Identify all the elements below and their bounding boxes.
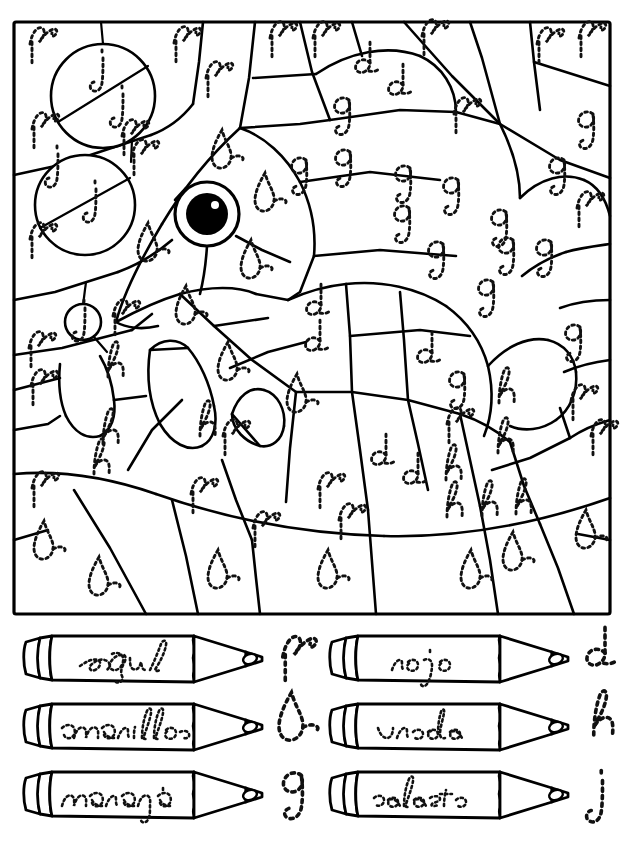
region-letter-h [446,445,461,482]
pencil-icon-celeste [330,772,568,818]
legend-letter-b [279,693,318,741]
region-letter-b [89,557,120,595]
legend-row-azul[interactable] [24,636,317,683]
region-letter-p [30,28,57,65]
legend-letter-g [283,773,302,819]
region-letter-p [318,473,345,510]
legend-rows [24,625,617,823]
coloring-picture[interactable] [0,0,624,622]
region-letter-p [32,113,59,150]
region-letter-p [31,370,58,407]
region-letter-b [212,130,243,168]
region-letter-g [499,238,514,275]
eye-glint [211,201,219,209]
eye-pupil [186,193,228,235]
legend-row-rojo[interactable] [330,625,617,687]
region-letter-p [206,62,233,99]
region-letter-p [313,22,340,59]
region-letter-h [498,418,513,455]
region-letter-p [253,512,280,549]
legend-letter-j [587,771,603,822]
region-letter-d [306,318,329,351]
pencil-icon-azul [24,636,262,682]
region-letter-b [503,532,534,570]
region-letter-d [389,62,412,95]
legend-letter-d [587,625,616,666]
legend-row-celeste[interactable] [330,771,603,822]
region-letter-g [395,206,410,243]
region-letter-g [579,112,594,149]
region-letter-g [566,325,581,362]
region-letter-h [108,342,123,379]
region-letter-g [450,372,465,409]
region-letter-d [418,330,441,363]
legend-row-naranja[interactable] [24,772,303,822]
region-letter-g [336,150,351,187]
region-letter-b [255,173,286,211]
worksheet-page [0,0,624,845]
region-letter-h [482,481,497,518]
region-letter-p [32,472,59,509]
pencil-icon-verde [330,704,568,750]
region-letter-p [571,385,598,422]
region-letter-b [576,510,607,548]
region-letter-g [444,178,459,215]
region-letter-p [422,20,449,57]
legend-row-verde[interactable] [330,691,613,750]
region-letter-h [447,482,462,519]
region-letter-p [537,28,564,65]
region-letter-p [579,22,606,59]
pencil-icon-naranja [24,772,262,818]
region-letter-d [372,432,395,465]
region-letter-b [318,550,349,588]
region-letter-p [270,22,297,59]
fish-eye [175,182,239,246]
region-letter-b [208,550,239,588]
region-letter-g [396,166,411,203]
legend-row-amarillo[interactable] [24,693,318,751]
bubble-2 [35,155,135,255]
pencil-icon-rojo [330,636,568,682]
region-letter-g [429,242,444,279]
region-letter-g [479,280,494,317]
region-letter-p [132,140,159,177]
region-letter-p [591,420,618,457]
region-letter-b [461,550,492,588]
region-letter-p [174,27,201,64]
legend-letter-h [594,691,613,738]
region-letter-p [577,192,604,229]
legend-letter-p [283,637,317,684]
color-key-legend [0,622,624,845]
region-letter-b [34,521,65,559]
region-letter-h [499,368,514,405]
